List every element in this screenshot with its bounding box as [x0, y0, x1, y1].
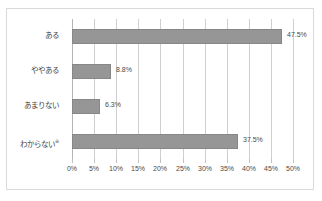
tick-mark-25%	[183, 159, 184, 163]
tick-mark-35%	[227, 159, 228, 163]
category-label-text: あまりない	[24, 101, 59, 110]
category-label: わからない※	[0, 136, 59, 150]
x-tick-label: 15%	[131, 164, 145, 174]
tick-mark-5%	[94, 159, 95, 163]
x-tick-label: 45%	[264, 164, 278, 174]
x-tick-label: 5%	[89, 164, 99, 174]
bar-row: 47.5%ある	[72, 19, 293, 54]
bar-value-label: 6.3%	[105, 100, 121, 110]
bar-value-label: 37.5%	[243, 135, 263, 145]
tick-mark-40%	[249, 159, 250, 163]
x-tick-label: 25%	[176, 164, 190, 174]
x-tick-label: 0%	[67, 164, 77, 174]
bar-row: 8.8%ややある	[72, 54, 293, 89]
x-tick-label: 10%	[109, 164, 123, 174]
tick-mark-50%	[293, 159, 294, 163]
bar	[72, 29, 282, 44]
tick-mark-30%	[205, 159, 206, 163]
bar-row: 6.3%あまりない	[72, 89, 293, 124]
category-label: ある	[0, 31, 59, 41]
x-tick-label: 30%	[198, 164, 212, 174]
tick-mark-20%	[160, 159, 161, 163]
category-label-text: ある	[45, 31, 59, 40]
x-tick-label: 35%	[220, 164, 234, 174]
category-note-marker: ※	[55, 138, 59, 144]
bar-value-label: 8.8%	[116, 65, 132, 75]
x-axis-tick-labels: 0%5%10%15%20%25%30%35%40%45%50%	[72, 164, 293, 176]
bar-row: 37.5%わからない※	[72, 124, 293, 159]
x-tick-label: 20%	[153, 164, 167, 174]
tick-mark-0%	[72, 159, 73, 163]
bar	[72, 99, 100, 114]
gridline-50%	[293, 19, 294, 159]
tick-mark-15%	[138, 159, 139, 163]
x-tick-label: 40%	[242, 164, 256, 174]
category-label-text: わからない	[20, 140, 55, 149]
bar	[72, 64, 111, 79]
category-label: あまりない	[0, 101, 59, 111]
category-label: ややある	[0, 66, 59, 76]
bar-chart-figure: 47.5%ある8.8%ややある6.3%あまりない37.5%わからない※ 0%5%…	[0, 0, 322, 201]
category-label-text: ややある	[31, 66, 59, 75]
tick-mark-10%	[116, 159, 117, 163]
x-tick-label: 50%	[286, 164, 300, 174]
plot-area: 47.5%ある8.8%ややある6.3%あまりない37.5%わからない※	[72, 19, 293, 159]
bar	[72, 134, 238, 149]
bar-value-label: 47.5%	[287, 30, 307, 40]
tick-mark-45%	[271, 159, 272, 163]
